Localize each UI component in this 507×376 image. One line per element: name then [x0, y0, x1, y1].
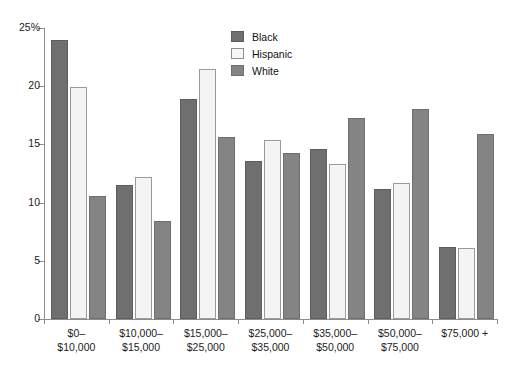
- chart-title-sliver: [10, 0, 340, 5]
- bar: [116, 185, 133, 319]
- x-tick-mark: [173, 319, 174, 324]
- legend: Black Hispanic White: [231, 28, 292, 79]
- x-tick-mark: [109, 319, 110, 324]
- y-tick-label: 5: [34, 254, 40, 267]
- bar: [283, 153, 300, 319]
- bar: [199, 69, 216, 319]
- bar: [393, 183, 410, 319]
- bar: [439, 247, 456, 319]
- bar: [458, 248, 475, 319]
- bar: [89, 196, 106, 319]
- y-tick-label: 25%: [19, 21, 40, 34]
- bar: [70, 87, 87, 319]
- y-tick-label: 0: [34, 312, 40, 325]
- y-tick-label: 10: [28, 196, 40, 209]
- bar: [245, 161, 262, 319]
- bar: [180, 99, 197, 319]
- legend-label-white: White: [252, 65, 279, 77]
- legend-swatch-icon-hispanic: [231, 48, 244, 59]
- x-tick-mark: [368, 319, 369, 324]
- legend-item-white: White: [231, 62, 292, 79]
- x-tick-mark: [303, 319, 304, 324]
- bar: [477, 134, 494, 319]
- x-axis-label: $10,000– $15,000: [109, 327, 174, 354]
- x-tick-mark: [432, 319, 433, 324]
- bar: [374, 189, 391, 319]
- y-tick-label: 20: [28, 79, 40, 92]
- x-axis-label: $50,000– $75,000: [368, 327, 433, 354]
- legend-item-black: Black: [231, 28, 292, 45]
- bar: [218, 137, 235, 319]
- bar: [348, 118, 365, 319]
- bar: [264, 140, 281, 319]
- x-tick-mark: [238, 319, 239, 324]
- x-axis-line: [44, 319, 497, 320]
- bar: [412, 109, 429, 319]
- x-axis-label: $0– $10,000: [44, 327, 109, 354]
- x-axis-label: $15,000– $25,000: [173, 327, 238, 354]
- bar: [51, 40, 68, 319]
- y-tick-label: 15: [28, 137, 40, 150]
- bar: [329, 164, 346, 319]
- legend-label-black: Black: [252, 31, 278, 43]
- x-axis-label: $35,000– $50,000: [303, 327, 368, 354]
- bar-chart: 0510152025% $0– $10,000$10,000– $15,000$…: [0, 0, 507, 376]
- x-tick-mark: [44, 319, 45, 324]
- bar: [135, 177, 152, 319]
- legend-swatch-icon-black: [231, 31, 244, 42]
- legend-label-hispanic: Hispanic: [252, 48, 292, 60]
- x-axis-label: $25,000– $35,000: [238, 327, 303, 354]
- bar: [154, 221, 171, 319]
- legend-item-hispanic: Hispanic: [231, 45, 292, 62]
- x-tick-mark: [497, 319, 498, 324]
- x-axis-label: $75,000 +: [432, 327, 497, 341]
- legend-swatch-icon-white: [231, 65, 244, 76]
- bar: [310, 149, 327, 319]
